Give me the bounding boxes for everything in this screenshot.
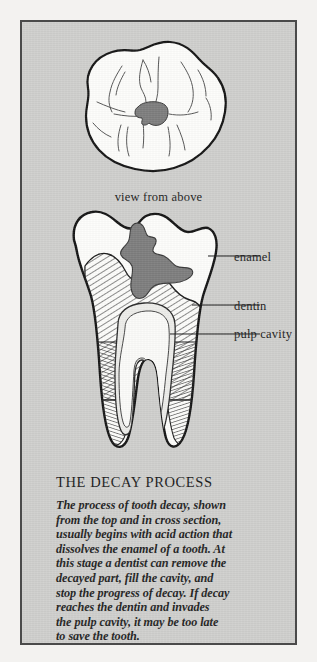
decay-process-title: THE DECAY PROCESS <box>56 474 271 491</box>
top-view-drawing <box>22 30 299 190</box>
page-root: view from above <box>0 0 317 662</box>
pulp-chamber-inner <box>119 311 169 427</box>
cross-section-drawing <box>22 192 299 457</box>
decay-process-body-line: from the top and in cross section, <box>56 513 271 528</box>
molar-occlusal-group <box>86 42 226 171</box>
decay-process-text-block: THE DECAY PROCESS The process of tooth d… <box>56 474 271 644</box>
decay-process-body-line: reaches the dentin and invades <box>56 600 271 615</box>
pulp-cavity-region <box>115 303 175 435</box>
decay-process-body-line: this stage a dentist can remove the <box>56 556 271 571</box>
decay-process-body-line: decayed part, fill the cavity, and <box>56 571 271 586</box>
decay-process-body: The process of tooth decay, shownfrom th… <box>56 498 271 644</box>
decay-process-body-line: dissolves the enamel of a tooth. At <box>56 542 271 557</box>
label-enamel: enamel <box>234 250 271 265</box>
label-dentin: dentin <box>234 299 266 314</box>
decay-process-body-line: the pulp cavity, it may be too late <box>56 615 271 630</box>
figure-cross-section <box>22 192 295 457</box>
illustration-plate: view from above <box>20 20 297 645</box>
decay-process-body-line: to save the tooth. <box>56 629 271 644</box>
figure-top-view <box>22 30 295 190</box>
decay-process-body-line: stop the progress of decay. If decay <box>56 586 271 601</box>
label-pulp-cavity: pulp cavity <box>234 327 292 342</box>
decay-process-body-line: The process of tooth decay, shown <box>56 498 271 513</box>
decay-process-body-line: usually begins with acid action that <box>56 527 271 542</box>
